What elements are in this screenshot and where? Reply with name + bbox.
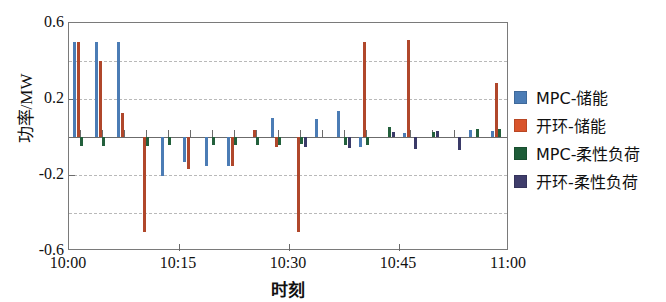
legend-label: 开环-储能 bbox=[536, 113, 606, 137]
bar bbox=[498, 129, 501, 137]
bar bbox=[366, 137, 369, 145]
bar bbox=[436, 131, 439, 137]
bar bbox=[168, 137, 171, 145]
minor-tick-mark bbox=[366, 130, 367, 137]
bar bbox=[256, 137, 259, 145]
y-tick-label: 0.2 bbox=[8, 89, 64, 107]
legend-swatch-icon bbox=[514, 147, 527, 160]
bar bbox=[278, 137, 281, 145]
gridline bbox=[69, 61, 507, 62]
minor-tick-mark bbox=[234, 130, 235, 137]
bar bbox=[121, 113, 124, 137]
chart-legend: MPC-储能开环-储能MPC-柔性负荷开环-柔性负荷 bbox=[514, 84, 664, 196]
bar bbox=[315, 119, 318, 137]
minor-tick-mark bbox=[146, 130, 147, 137]
minor-tick-mark bbox=[80, 130, 81, 137]
x-tick-mark bbox=[179, 244, 180, 251]
minor-tick-mark bbox=[256, 130, 257, 137]
x-tick-label: 10:30 bbox=[270, 254, 306, 272]
legend-swatch-icon bbox=[514, 91, 527, 104]
x-tick-mark bbox=[289, 244, 290, 251]
legend-item[interactable]: MPC-储能 bbox=[514, 84, 664, 110]
bar bbox=[99, 61, 102, 137]
bar bbox=[234, 137, 237, 145]
minor-tick-mark bbox=[102, 130, 103, 137]
legend-item[interactable]: 开环-柔性负荷 bbox=[514, 168, 664, 194]
minor-tick-mark bbox=[300, 130, 301, 137]
legend-item[interactable]: MPC-柔性负荷 bbox=[514, 140, 664, 166]
bar bbox=[458, 137, 461, 150]
gridline bbox=[69, 99, 507, 100]
bar bbox=[205, 137, 208, 166]
bar bbox=[212, 137, 215, 145]
bar bbox=[359, 137, 362, 147]
legend-swatch-icon bbox=[514, 175, 527, 188]
bar bbox=[304, 137, 307, 147]
bar bbox=[476, 129, 479, 137]
bar bbox=[187, 137, 190, 169]
bar bbox=[469, 130, 472, 137]
x-tick-label: 10:45 bbox=[380, 254, 416, 272]
bar bbox=[271, 118, 274, 137]
bar bbox=[80, 137, 83, 146]
chart-figure: 功率/MW 0.60.2-0.2-0.6 10:0010:1510:3010:4… bbox=[0, 0, 666, 302]
y-tick-label: 0.6 bbox=[8, 13, 64, 31]
legend-swatch-icon bbox=[514, 119, 527, 132]
legend-item[interactable]: 开环-储能 bbox=[514, 112, 664, 138]
x-tick-label: 11:00 bbox=[490, 254, 526, 272]
minor-tick-mark bbox=[410, 130, 411, 137]
bar bbox=[363, 42, 366, 137]
y-tick-mark bbox=[69, 175, 75, 176]
bar bbox=[348, 137, 351, 148]
minor-tick-mark bbox=[344, 130, 345, 137]
bar bbox=[414, 137, 417, 149]
bar bbox=[143, 137, 146, 232]
legend-label: MPC-柔性负荷 bbox=[536, 141, 640, 165]
minor-tick-mark bbox=[168, 130, 169, 137]
minor-tick-mark bbox=[190, 130, 191, 137]
bar bbox=[337, 111, 340, 137]
minor-tick-mark bbox=[124, 130, 125, 137]
bar bbox=[407, 40, 410, 137]
bar bbox=[77, 42, 80, 137]
zero-line bbox=[69, 137, 507, 138]
minor-tick-mark bbox=[454, 130, 455, 137]
bar bbox=[297, 137, 300, 232]
x-axis-label: 时刻 bbox=[68, 276, 508, 301]
minor-tick-mark bbox=[212, 130, 213, 137]
x-tick-mark bbox=[399, 244, 400, 251]
x-tick-label: 10:00 bbox=[50, 254, 86, 272]
bar bbox=[392, 132, 395, 137]
bar bbox=[253, 130, 256, 137]
legend-label: 开环-柔性负荷 bbox=[536, 169, 638, 193]
bar bbox=[102, 137, 105, 146]
x-tick-label: 10:15 bbox=[160, 254, 196, 272]
y-tick-label: -0.2 bbox=[8, 165, 64, 183]
plot-area bbox=[68, 22, 508, 250]
minor-tick-mark bbox=[322, 130, 323, 137]
legend-label: MPC-储能 bbox=[536, 85, 608, 109]
gridline bbox=[69, 175, 507, 176]
minor-tick-mark bbox=[278, 130, 279, 137]
bar bbox=[146, 137, 149, 146]
gridline bbox=[69, 213, 507, 214]
bar bbox=[161, 137, 164, 176]
